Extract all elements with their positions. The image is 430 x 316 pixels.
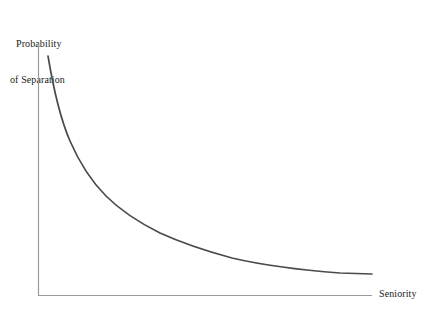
plot-area bbox=[0, 0, 430, 316]
axes-group bbox=[38, 44, 372, 296]
data-series-group bbox=[48, 56, 372, 274]
x-axis-label: Seniority bbox=[379, 288, 417, 300]
chart-figure: Probability of Separation Seniority bbox=[0, 0, 430, 316]
separation-probability-curve bbox=[48, 56, 372, 274]
